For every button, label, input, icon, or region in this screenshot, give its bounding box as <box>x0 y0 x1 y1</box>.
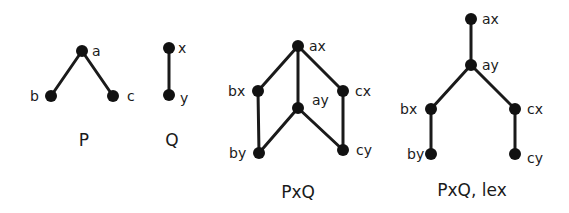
node-label-x: x <box>178 40 186 56</box>
node-label-bx: bx <box>228 83 245 99</box>
node-ax <box>292 40 304 52</box>
node-by <box>253 147 265 159</box>
edge-a-b <box>51 51 82 96</box>
diagram-title: PxQ, lex <box>437 180 506 200</box>
edge-ay-cy <box>298 108 343 150</box>
diagram-title: P <box>79 130 89 150</box>
node-label-y: y <box>180 90 188 106</box>
node-bx <box>425 103 437 115</box>
node-label-ay: ay <box>312 92 329 108</box>
node-label-a: a <box>92 43 101 59</box>
node-c <box>107 90 119 102</box>
edge-ay-bx <box>431 65 471 109</box>
diagram-title: PxQ <box>281 182 315 202</box>
node-bx <box>252 85 264 97</box>
node-label-ay: ay <box>482 57 499 73</box>
node-cx <box>509 103 521 115</box>
node-cy <box>337 144 349 156</box>
edge-ax-bx <box>258 46 298 91</box>
node-label-by: by <box>407 146 424 162</box>
node-ay <box>292 102 304 114</box>
node-x <box>163 42 175 54</box>
diagram-title: Q <box>165 130 178 150</box>
node-b <box>45 90 57 102</box>
diagram-q: xyQ <box>163 40 188 150</box>
diagram-p: abcP <box>30 43 135 150</box>
node-label-b: b <box>30 88 39 104</box>
node-label-bx: bx <box>400 101 417 117</box>
node-cy <box>509 148 521 160</box>
edge-ay-by <box>259 108 298 153</box>
diagram-pxq-lex: axaybxcxbycyPxQ, lex <box>400 11 543 200</box>
edge-bx-by <box>258 91 259 153</box>
node-label-cy: cy <box>527 150 543 166</box>
poset-diagrams: abcPxyQaxbxcxaybycyPxQaxaybxcxbycyPxQ, l… <box>0 0 569 213</box>
node-by <box>425 148 437 160</box>
diagram-pxq: axbxcxaybycyPxQ <box>228 38 372 202</box>
node-label-cy: cy <box>356 142 372 158</box>
node-label-cx: cx <box>527 101 543 117</box>
node-label-ax: ax <box>482 11 499 27</box>
node-y <box>163 89 175 101</box>
node-ay <box>465 59 477 71</box>
node-label-ax: ax <box>309 38 326 54</box>
node-label-cx: cx <box>355 83 371 99</box>
node-cx <box>337 85 349 97</box>
node-label-by: by <box>229 145 246 161</box>
node-a <box>76 45 88 57</box>
node-ax <box>465 13 477 25</box>
node-label-c: c <box>127 88 135 104</box>
